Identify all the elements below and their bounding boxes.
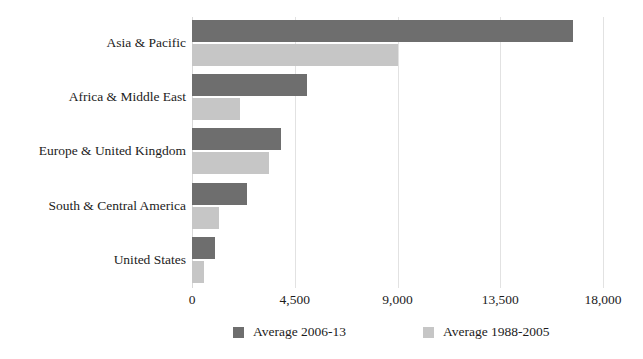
legend-entry-0[interactable]: Average 2006-13 (233, 324, 346, 340)
bar (192, 98, 240, 120)
category-label-3: South & Central America (1, 199, 186, 213)
category-label-4: United States (1, 253, 186, 267)
bar (192, 237, 215, 259)
bar (192, 128, 281, 150)
gridline-9000 (398, 17, 399, 288)
category-label-2: Europe & United Kingdom (1, 144, 186, 158)
category-label-0: Asia & Pacific (1, 36, 186, 50)
bar (192, 74, 307, 96)
xtick-label-3: 13,500 (482, 292, 519, 308)
xtick-label-2: 9,000 (382, 292, 412, 308)
legend-label: Average 2006-13 (253, 324, 346, 340)
bar-chart-figure: ▬▬ ▬▬▬▬ ▬▬▬▬▬ Asia & PacificAfrica & Mid… (0, 0, 643, 359)
bar (192, 183, 247, 205)
cropped-title-sliver: ▬▬ ▬▬▬▬ ▬▬▬▬▬ (286, 0, 406, 4)
legend-label: Average 1988-2005 (443, 324, 550, 340)
plot-area (192, 17, 603, 288)
legend-entry-1[interactable]: Average 1988-2005 (423, 324, 550, 340)
bar (192, 207, 219, 229)
bar (192, 44, 398, 66)
bar (192, 20, 573, 42)
gridline-13500 (500, 17, 501, 288)
xtick-label-4: 18,000 (584, 292, 621, 308)
bar (192, 261, 204, 283)
category-axis-labels: Asia & PacificAfrica & Middle EastEurope… (0, 17, 186, 288)
value-axis-tick-labels: 04,5009,00013,50018,000 (0, 292, 643, 312)
xtick-label-1: 4,500 (280, 292, 310, 308)
legend-swatch-icon (423, 327, 434, 338)
legend-swatch-icon (233, 327, 244, 338)
gridline-18000 (603, 17, 604, 288)
chart-legend: Average 2006-13Average 1988-2005 (0, 324, 643, 344)
xtick-label-0: 0 (189, 292, 196, 308)
category-label-1: Africa & Middle East (1, 90, 186, 104)
bar (192, 152, 269, 174)
